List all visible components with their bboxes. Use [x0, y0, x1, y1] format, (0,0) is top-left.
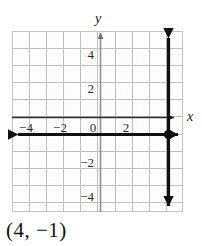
y-tick-label-4: 4	[72, 48, 94, 61]
x-tick-label-neg-4: −4	[14, 121, 38, 134]
x-tick-label-neg-2: −2	[48, 121, 72, 134]
figure-caption: (4, −1)	[6, 218, 67, 242]
y-axis-label: y	[95, 12, 101, 26]
coordinate-plane-figure: y x 4 2 −2 −4 −4 −2 0 2 (4, −1)	[0, 0, 202, 246]
y-tick-label-2: 2	[72, 82, 94, 95]
y-tick-label-neg-4: −4	[68, 190, 94, 203]
x-tick-label-0: 0	[85, 121, 101, 134]
x-axis-label: x	[187, 110, 193, 124]
x-tick-label-2: 2	[118, 121, 134, 134]
y-tick-label-neg-2: −2	[68, 156, 94, 169]
